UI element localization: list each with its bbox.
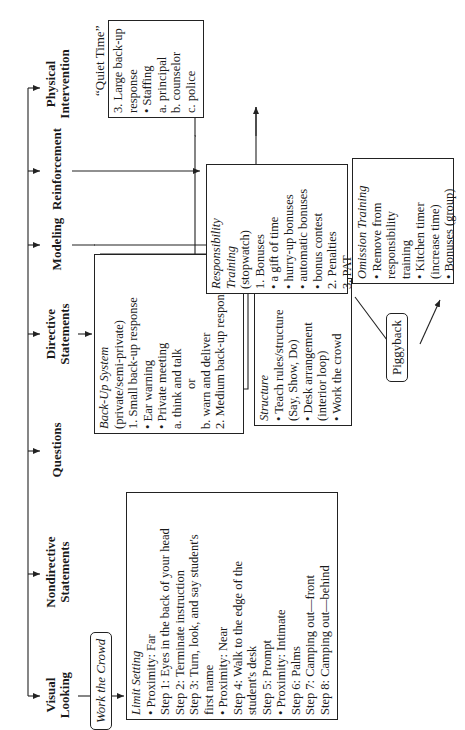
work-the-crowd-pill: Work the Crowd bbox=[90, 632, 112, 730]
limit-setting-line: first name bbox=[202, 497, 217, 715]
limit-setting-line: Step 2: Terminate instruction bbox=[173, 497, 188, 715]
category-label: Statements bbox=[58, 532, 72, 612]
large-backup-line: b. counselor bbox=[169, 25, 184, 113]
category-label: Looking bbox=[58, 670, 72, 720]
responsibility-line: 2. Penalties bbox=[325, 169, 340, 289]
omission-line: (increase time) bbox=[428, 163, 443, 279]
structure-box: Structure • Teach rules/structure (Say, … bbox=[254, 278, 352, 426]
large-backup-line: a. principal bbox=[155, 25, 170, 113]
responsibility-line: • bonus contest bbox=[311, 169, 326, 289]
limit-setting-line: Step 1: Eyes in the back of your head bbox=[158, 497, 173, 715]
category-modeling: Modeling bbox=[50, 214, 64, 274]
responsibility-line: • a gift of time bbox=[267, 169, 282, 289]
limit-setting-line: Proximity: Near bbox=[216, 497, 231, 715]
large-backup-line: response bbox=[126, 25, 141, 113]
limit-setting-line: Step 3: Turn, look, and say student's bbox=[187, 497, 202, 715]
category-label: Statements bbox=[58, 294, 72, 374]
structure-line: • Teach rules/structure bbox=[272, 283, 287, 421]
category-label: Reinforcement bbox=[50, 124, 64, 214]
back-up-line: 1. Small back-up response bbox=[126, 259, 141, 429]
structure-line: • Work the crowd bbox=[330, 283, 345, 421]
category-label: Nondirective bbox=[44, 532, 58, 612]
responsibility-training-title: Training bbox=[224, 169, 239, 289]
category-label: Questions bbox=[50, 412, 64, 488]
limit-setting-line: Step 6: Palms bbox=[289, 497, 304, 715]
responsibility-line: • hurry-up bonuses bbox=[282, 169, 297, 289]
back-up-system-title: Back-Up System bbox=[97, 259, 112, 429]
large-backup-line: 3. Large back-up bbox=[111, 25, 126, 113]
category-label: Visual bbox=[44, 670, 58, 720]
structure-line: • Desk arrangement bbox=[301, 283, 316, 421]
back-up-line: • Private meeting bbox=[155, 259, 170, 429]
category-label: Physical bbox=[44, 44, 58, 124]
large-backup-line: • Staffing bbox=[140, 25, 155, 113]
responsibility-line: (stopwatch) bbox=[238, 169, 253, 289]
category-label: Directive bbox=[44, 294, 58, 374]
omission-line: • Remove from bbox=[370, 163, 385, 279]
category-questions: Questions bbox=[50, 412, 64, 488]
limit-setting-line: student's desk bbox=[245, 497, 260, 715]
back-up-line: a. think and talk bbox=[170, 259, 185, 429]
category-label: Intervention bbox=[58, 44, 72, 124]
piggyback-pill: Piggyback bbox=[386, 313, 408, 382]
quiet-time-label: “Quiet Time” bbox=[92, 26, 108, 96]
category-label: Modeling bbox=[50, 214, 64, 274]
responsibility-line: 1. Bonuses bbox=[253, 169, 268, 289]
category-physical-intervention: Physical Intervention bbox=[44, 44, 72, 124]
category-visual-looking: Visual Looking bbox=[44, 670, 72, 720]
back-up-line: • Ear warning bbox=[141, 259, 156, 429]
omission-line: • Kitchen timer bbox=[413, 163, 428, 279]
category-reinforcement: Reinforcement bbox=[50, 124, 64, 214]
omission-training-box: Omission Training • Remove from responsi… bbox=[352, 158, 454, 284]
responsibility-training-box: Responsibility Training (stopwatch) 1. B… bbox=[206, 164, 348, 294]
responsibility-training-title: Responsibility bbox=[209, 169, 224, 289]
category-directive-statements: Directive Statements bbox=[44, 294, 72, 374]
omission-line: training bbox=[399, 163, 414, 279]
omission-line: • Bonuses (group) bbox=[442, 163, 457, 279]
limit-setting-box: Limit Setting Proximity: Far Step 1: Eye… bbox=[126, 492, 338, 720]
limit-setting-title: Limit Setting bbox=[129, 497, 144, 715]
limit-setting-line: Proximity: Far bbox=[144, 497, 159, 715]
limit-setting-line: Proximity: Intimate bbox=[274, 497, 289, 715]
back-up-line: or bbox=[184, 259, 199, 429]
limit-setting-line: Step 4: Walk to the edge of the bbox=[231, 497, 246, 715]
large-backup-line: c. police bbox=[184, 25, 199, 113]
omission-training-title: Omission Training bbox=[355, 163, 370, 279]
structure-line: (interior loop) bbox=[315, 283, 330, 421]
limit-setting-line: Step 8: Camping out—behind bbox=[318, 497, 333, 715]
structure-line: (Say, Show, Do) bbox=[286, 283, 301, 421]
structure-title: Structure bbox=[257, 283, 272, 421]
category-nondirective-statements: Nondirective Statements bbox=[44, 532, 72, 612]
back-up-line: (private/semi-private) bbox=[112, 259, 127, 429]
limit-setting-line: Step 7: Camping out—front bbox=[303, 497, 318, 715]
large-backup-box: 3. Large back-up response • Staffing a. … bbox=[108, 20, 204, 118]
omission-line: responsibility bbox=[384, 163, 399, 279]
responsibility-line: • automatic bonuses bbox=[296, 169, 311, 289]
limit-setting-line: Step 5: Prompt bbox=[260, 497, 275, 715]
